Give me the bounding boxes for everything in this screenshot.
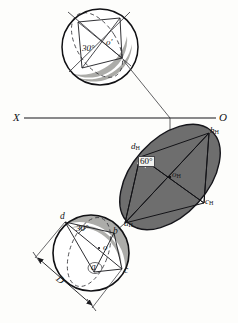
axis-label-o: O — [219, 111, 227, 123]
front-center-label-o-prime: o' — [106, 38, 112, 47]
front-view-group — [61, 4, 170, 118]
top-angle-60: 60° — [138, 156, 155, 167]
top-view-center-dot — [169, 176, 171, 178]
top-vertex-label-c: cH — [205, 197, 213, 206]
front-to-axis-projector — [123, 60, 170, 118]
profile-vertex-label-b: b — [113, 227, 118, 237]
top-center-label-o: oH — [172, 170, 181, 179]
top-vertex-label-b: bH — [210, 126, 219, 135]
geometry-drawing — [0, 0, 238, 323]
profile-center-label-o: o — [103, 243, 108, 252]
top-vertex-label-d: dH — [131, 142, 140, 151]
profile-vertex-label-a: a — [91, 263, 96, 273]
profile-vertex-label-c: c — [124, 266, 128, 276]
front-angle-30: 30° — [82, 44, 95, 53]
top-vertex-label-a: aH — [124, 219, 133, 228]
axis-label-x: X — [13, 111, 20, 123]
profile-center-dot — [98, 247, 100, 249]
figure-canvas: X O 30° o' bH dH cH aH oH 60° d b c a o … — [0, 0, 238, 323]
dim-tick-left — [33, 252, 41, 264]
profile-vertex-label-d: d — [60, 212, 65, 222]
profile-angle-30: 30° — [76, 224, 89, 233]
